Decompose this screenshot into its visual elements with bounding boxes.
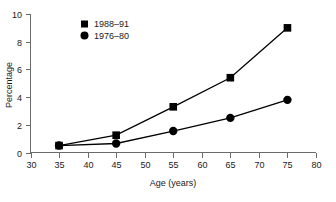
x-tick-label: 75 [282, 160, 292, 170]
x-tick-label: 70 [254, 160, 264, 170]
x-axis-ticks [32, 153, 317, 158]
y-tick-label: 10 [12, 10, 22, 20]
series-markers [55, 24, 292, 150]
data-point-1-4 [283, 96, 291, 104]
x-tick-label: 40 [83, 160, 93, 170]
x-tick-label: 55 [168, 160, 178, 170]
data-point-1-1 [112, 139, 120, 147]
x-tick-label: 50 [140, 160, 150, 170]
data-point-1-2 [169, 127, 177, 135]
x-tick-label: 65 [225, 160, 235, 170]
x-tick-label: 45 [111, 160, 121, 170]
legend-label-0: 1988–91 [94, 19, 129, 29]
y-tick-label: 4 [17, 93, 22, 103]
chart-legend: 1988–91 1976–80 [81, 19, 130, 41]
line-chart: 0246810 3035404550556065707580 1988–91 1… [0, 0, 336, 202]
y-tick-label: 8 [17, 38, 22, 48]
y-axis-title: Percentage [4, 62, 14, 108]
y-axis-ticks [26, 15, 31, 154]
x-tick-label: 35 [54, 160, 64, 170]
data-point-1-0 [55, 141, 63, 149]
chart-canvas: 0246810 3035404550556065707580 1988–91 1… [0, 0, 336, 202]
x-tick-label: 80 [311, 160, 321, 170]
y-tick-label: 6 [17, 65, 22, 75]
y-tick-label: 0 [17, 149, 22, 159]
x-axis-tick-labels: 3035404550556065707580 [26, 160, 321, 170]
data-point-0-1 [112, 131, 120, 139]
x-axis-title: Age (years) [150, 178, 197, 188]
x-tick-label: 30 [26, 160, 36, 170]
y-tick-label: 2 [17, 121, 22, 131]
data-point-0-2 [169, 103, 177, 111]
x-tick-label: 60 [197, 160, 207, 170]
data-point-1-3 [226, 114, 234, 122]
data-point-0-4 [284, 24, 292, 32]
data-point-0-3 [227, 74, 235, 82]
legend-label-1: 1976–80 [94, 31, 129, 41]
legend-marker-square [81, 21, 88, 28]
legend-marker-circle [81, 32, 89, 40]
